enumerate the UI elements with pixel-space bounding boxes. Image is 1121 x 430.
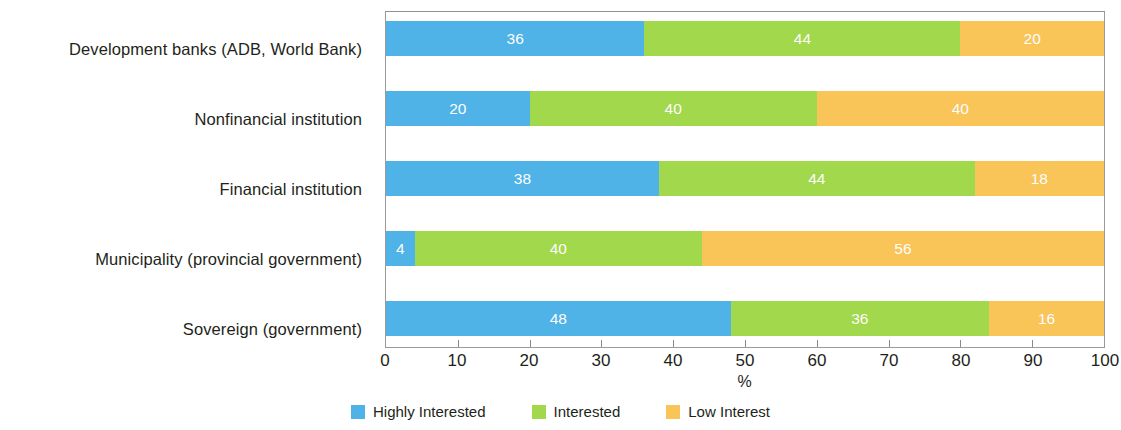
chart-legend: Highly Interested Interested Low Interes…: [0, 404, 1121, 419]
x-axis-tick-label: 60: [808, 352, 827, 369]
legend-label: Highly Interested: [373, 404, 486, 419]
bar-segment-low-interest[interactable]: 20: [960, 21, 1104, 56]
x-axis-tick-label: 50: [736, 352, 755, 369]
bar-segment-interested[interactable]: 44: [644, 21, 960, 56]
x-axis-title-text: %: [737, 373, 751, 390]
x-axis-tick: [889, 340, 890, 347]
bar-segment-interested[interactable]: 40: [530, 91, 817, 126]
category-label-municipality: Municipality (provincial government): [0, 251, 362, 268]
x-axis-tick: [601, 340, 602, 347]
bar-segment-interested[interactable]: 40: [415, 231, 702, 266]
x-axis-tick-label: 100: [1091, 352, 1119, 369]
bar-value-label: 56: [894, 241, 911, 257]
stacked-bar-chart: Development banks (ADB, World Bank) Nonf…: [0, 0, 1121, 430]
legend-swatch-icon: [351, 405, 365, 419]
bar-segment-low-interest[interactable]: 40: [817, 91, 1104, 126]
bar-segment-interested[interactable]: 36: [731, 301, 989, 336]
bar-value-label: 16: [1038, 311, 1055, 327]
bar-value-label: 40: [665, 101, 682, 117]
bar-value-label: 20: [449, 101, 466, 117]
table-row: 48 36 16: [386, 301, 1104, 336]
x-axis-tick: [530, 340, 531, 347]
x-axis-tick-label: 90: [1024, 352, 1043, 369]
x-axis-tick: [817, 340, 818, 347]
x-axis-tick-label: 70: [880, 352, 899, 369]
bar-segment-highly-interested[interactable]: 48: [386, 301, 731, 336]
bar-value-label: 40: [952, 101, 969, 117]
legend-label: Low Interest: [688, 404, 770, 419]
x-axis-tick: [1032, 340, 1033, 347]
category-label-nonfinancial-institution: Nonfinancial institution: [0, 111, 362, 128]
bar-segment-highly-interested[interactable]: 20: [386, 91, 530, 126]
x-axis-tick: [673, 340, 674, 347]
bar-segment-highly-interested[interactable]: 36: [386, 21, 644, 56]
legend-item-low-interest[interactable]: Low Interest: [666, 404, 770, 419]
category-label-financial-institution: Financial institution: [0, 181, 362, 198]
x-axis-tick-label: 20: [520, 352, 539, 369]
x-axis-tick-label: 80: [952, 352, 971, 369]
bar-value-label: 36: [507, 31, 524, 47]
bar-value-label: 4: [396, 241, 405, 257]
table-row: 36 44 20: [386, 21, 1104, 56]
bar-segment-highly-interested[interactable]: 4: [386, 231, 415, 266]
x-axis-tick-label: 0: [380, 352, 389, 369]
x-axis-title: %: [0, 374, 1121, 390]
bar-value-label: 48: [550, 311, 567, 327]
category-label-sovereign: Sovereign (government): [0, 321, 362, 338]
bar-value-label: 40: [550, 241, 567, 257]
legend-item-interested[interactable]: Interested: [532, 404, 621, 419]
x-axis-tick: [458, 340, 459, 347]
bar-value-label: 20: [1024, 31, 1041, 47]
x-axis-tick-label: 40: [664, 352, 683, 369]
category-axis: Development banks (ADB, World Bank) Nonf…: [0, 11, 374, 348]
x-axis-tick-label: 30: [592, 352, 611, 369]
legend-swatch-icon: [532, 405, 546, 419]
x-axis-tick: [960, 340, 961, 347]
legend-item-highly-interested[interactable]: Highly Interested: [351, 404, 486, 419]
bar-value-label: 36: [851, 311, 868, 327]
bar-value-label: 44: [808, 171, 825, 187]
plot-inner: 36 44 20 20 40 40: [386, 12, 1104, 347]
bar-segment-low-interest[interactable]: 56: [702, 231, 1104, 266]
bar-value-label: 38: [514, 171, 531, 187]
bar-segment-highly-interested[interactable]: 38: [386, 161, 659, 196]
bar-segment-low-interest[interactable]: 18: [975, 161, 1104, 196]
bar-segment-interested[interactable]: 44: [659, 161, 975, 196]
bar-value-label: 44: [794, 31, 811, 47]
x-axis-tick: [745, 340, 746, 347]
table-row: 20 40 40: [386, 91, 1104, 126]
x-axis-tick-label: 10: [448, 352, 467, 369]
legend-label: Interested: [554, 404, 621, 419]
legend-swatch-icon: [666, 405, 680, 419]
plot-area: 36 44 20 20 40 40: [385, 11, 1105, 348]
table-row: 4 40 56: [386, 231, 1104, 266]
category-label-development-banks: Development banks (ADB, World Bank): [0, 41, 362, 58]
bar-value-label: 18: [1031, 171, 1048, 187]
table-row: 38 44 18: [386, 161, 1104, 196]
bar-segment-low-interest[interactable]: 16: [989, 301, 1104, 336]
